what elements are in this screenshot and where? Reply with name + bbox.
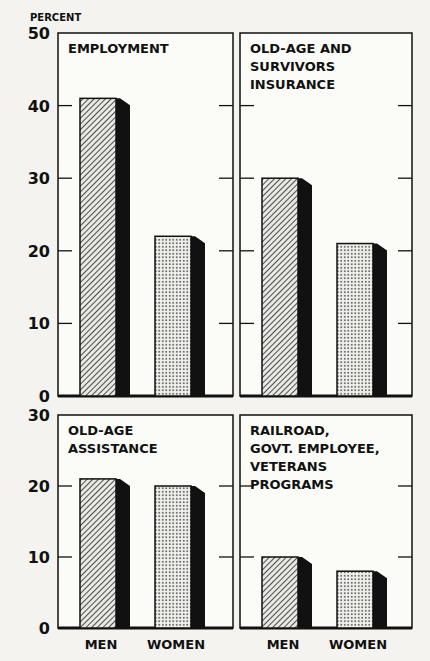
panel-4: RAILROAD,GOVT. EMPLOYEE,VETERANSPROGRAMS… xyxy=(240,415,412,652)
bar-women xyxy=(155,486,191,628)
y-axis-label: PERCENT xyxy=(30,12,81,23)
y-tick-label: 40 xyxy=(28,97,50,116)
bar-men xyxy=(262,557,298,628)
y-tick-label: 0 xyxy=(39,387,50,406)
y-tick-label: 50 xyxy=(28,24,50,43)
panel-title-line: OLD-AGE AND xyxy=(250,41,352,56)
panel-title-line: EMPLOYMENT xyxy=(68,41,169,56)
bar-shadow-men xyxy=(298,178,312,396)
y-tick-label: 0 xyxy=(39,619,50,638)
bar-women xyxy=(155,236,191,396)
bar-shadow-women xyxy=(191,486,205,628)
bar-men xyxy=(80,479,116,628)
panel-3: 0102030OLD-AGEASSISTANCEMENWOMEN xyxy=(28,406,233,652)
panel-title-line: ASSISTANCE xyxy=(68,441,158,456)
y-tick-label: 30 xyxy=(28,406,50,425)
panel-1: 01020304050EMPLOYMENT xyxy=(28,24,233,406)
x-category-label: MEN xyxy=(85,637,118,652)
y-tick-label: 10 xyxy=(28,314,50,333)
bar-shadow-men xyxy=(116,98,130,396)
panel-title-line: PROGRAMS xyxy=(250,477,334,492)
x-category-label: WOMEN xyxy=(147,637,205,652)
bar-men xyxy=(80,98,116,396)
y-tick-label: 30 xyxy=(28,169,50,188)
bar-shadow-women xyxy=(373,571,387,628)
y-tick-label: 20 xyxy=(28,477,50,496)
bar-women xyxy=(337,244,373,396)
y-tick-label: 20 xyxy=(28,242,50,261)
bar-women xyxy=(337,571,373,628)
bar-men xyxy=(262,178,298,396)
panel-title-line: INSURANCE xyxy=(250,77,335,92)
bar-shadow-men xyxy=(298,557,312,628)
panel-2: OLD-AGE ANDSURVIVORSINSURANCE xyxy=(240,33,412,396)
bar-shadow-women xyxy=(373,244,387,396)
chart-figure: PERCENT01020304050EMPLOYMENTOLD-AGE ANDS… xyxy=(0,0,430,661)
panel-title-line: RAILROAD, xyxy=(250,423,330,438)
x-category-label: MEN xyxy=(267,637,300,652)
panel-title-line: GOVT. EMPLOYEE, xyxy=(250,441,380,456)
y-tick-label: 10 xyxy=(28,548,50,567)
bar-shadow-men xyxy=(116,479,130,628)
panel-title-line: SURVIVORS xyxy=(250,59,335,74)
x-category-label: WOMEN xyxy=(329,637,387,652)
bar-shadow-women xyxy=(191,236,205,396)
panel-title-line: OLD-AGE xyxy=(68,423,133,438)
panel-title-line: VETERANS xyxy=(250,459,327,474)
